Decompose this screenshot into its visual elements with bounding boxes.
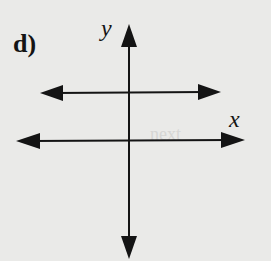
arrow-up-icon [121,24,137,47]
arrow-right-icon [198,84,221,100]
part-label: d) [13,29,36,58]
x-axis [16,132,245,149]
arrow-left-icon [16,133,40,149]
arrow-right-icon [221,132,245,148]
x-axis-label: x [228,106,240,132]
arrow-left-icon [40,85,63,101]
y-axis-label: y [99,15,112,41]
horizontal-line [40,84,221,101]
arrow-down-icon [121,236,137,259]
coordinate-diagram: next d) y x [0,0,271,261]
